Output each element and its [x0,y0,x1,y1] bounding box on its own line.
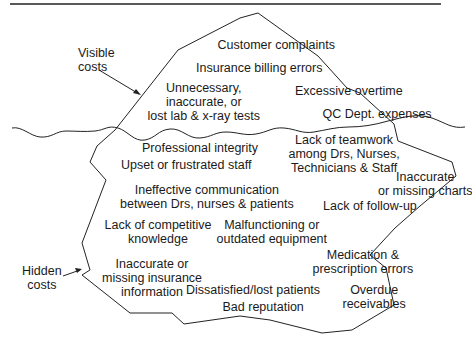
hidden-cost-label: Overdue receivables [343,283,406,311]
visible-cost-label: Customer complaints [218,38,335,52]
hidden-cost-label: Medication & prescription errors [313,248,414,276]
hidden-cost-label: Professional integrity [142,141,258,155]
visible-cost-label: Excessive overtime [295,84,403,98]
hidden-cost-label: Ineffective communication between Drs, n… [120,183,294,211]
hidden-costs-arrowhead [75,268,82,273]
hidden-cost-label: Lack of teamwork among Drs, Nurses, Tech… [289,133,400,175]
hidden-cost-label: Lack of competitive knowledge [105,218,212,246]
visible-cost-label: Unnecessary, inaccurate, or lost lab & x… [148,81,261,123]
visible-costs-arrowhead [133,89,141,95]
hidden-cost-label: Bad reputation [223,300,304,314]
hidden-cost-label: Lack of follow-up [323,199,417,213]
hidden-costs-callout: Hidden costs [22,264,62,292]
visible-cost-label: Insurance billing errors [196,61,322,75]
hidden-cost-label: Malfunctioning or outdated equipment [217,218,328,246]
hidden-cost-label: Inaccurate or missing charts [378,170,472,198]
visible-cost-label: QC Dept. expenses [323,107,432,121]
visible-costs-callout: Visible costs [78,46,115,74]
hidden-cost-label: Upset or frustrated staff [121,158,251,172]
hidden-cost-label: Dissatisfied/lost patients [186,283,320,297]
